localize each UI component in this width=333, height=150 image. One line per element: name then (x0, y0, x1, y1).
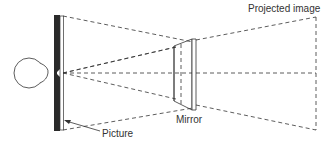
projected-image-label: Projected image (248, 4, 320, 14)
picture-plate (54, 15, 64, 131)
picture-pointer-arrow (64, 120, 100, 131)
eye-icon (14, 58, 48, 88)
mirror-label: Mirror (176, 115, 202, 125)
picture-label: Picture (102, 129, 133, 139)
optics-diagram (0, 0, 333, 150)
mirror (174, 39, 196, 110)
light-rays (63, 16, 316, 130)
